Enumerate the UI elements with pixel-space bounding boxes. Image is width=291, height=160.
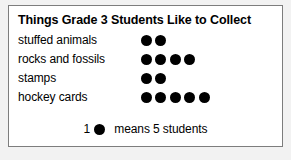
pictograph-row-hockey-cards: hockey cards bbox=[9, 89, 282, 108]
row-label: stuffed animals bbox=[18, 33, 97, 47]
chart-legend: 1 means 5 students bbox=[9, 122, 282, 136]
filled-circle-icon bbox=[141, 73, 152, 84]
row-label: stamps bbox=[18, 71, 56, 85]
filled-circle-icon bbox=[170, 54, 181, 65]
pictograph-row-rocks-and-fossils: rocks and fossils bbox=[9, 51, 282, 70]
filled-circle-icon bbox=[155, 54, 166, 65]
page-title: Things Grade 3 Students Like to Collect bbox=[18, 13, 251, 27]
row-symbol-group bbox=[141, 92, 213, 103]
filled-circle-icon bbox=[155, 35, 166, 46]
row-symbol-group bbox=[141, 73, 170, 84]
filled-circle-icon bbox=[141, 54, 152, 65]
filled-circle-icon bbox=[141, 35, 152, 46]
pictograph-row-stamps: stamps bbox=[9, 70, 282, 89]
filled-circle-icon bbox=[199, 92, 210, 103]
filled-circle-icon bbox=[184, 54, 195, 65]
filled-circle-icon bbox=[184, 92, 195, 103]
pictograph-card: Things Grade 3 Students Like to Collect … bbox=[8, 5, 283, 147]
filled-circle-icon bbox=[155, 73, 166, 84]
filled-circle-icon bbox=[155, 92, 166, 103]
legend-count-label: 1 bbox=[84, 122, 91, 136]
legend-text: means 5 students bbox=[114, 122, 207, 136]
pictograph-rows: stuffed animals rocks and fossils stamps bbox=[9, 32, 282, 108]
pictograph-row-stuffed-animals: stuffed animals bbox=[9, 32, 282, 51]
filled-circle-icon bbox=[141, 92, 152, 103]
filled-circle-icon bbox=[170, 92, 181, 103]
row-label: rocks and fossils bbox=[18, 52, 105, 66]
row-label: hockey cards bbox=[18, 90, 88, 104]
filled-circle-icon bbox=[94, 124, 105, 135]
row-symbol-group bbox=[141, 54, 199, 65]
row-symbol-group bbox=[141, 35, 170, 46]
